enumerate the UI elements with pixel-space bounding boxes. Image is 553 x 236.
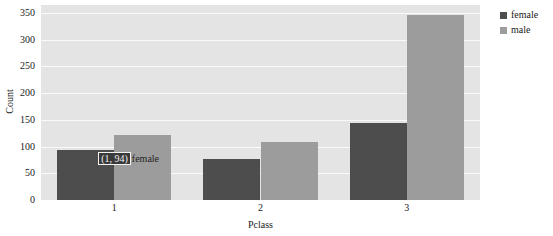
y-tick-label: 150 (20, 115, 35, 125)
y-tick-label: 300 (20, 35, 35, 45)
y-tick-label: 50 (25, 168, 35, 178)
x-tick-label: 2 (258, 202, 263, 213)
bar-1-male[interactable] (114, 135, 171, 200)
bar-chart-figure: Count 050100150200250300350 (1, 94)femal… (0, 0, 553, 236)
plot-area: (1, 94)female (41, 5, 480, 200)
legend-item-female[interactable]: female (500, 10, 538, 20)
y-tick-label: 0 (30, 195, 35, 205)
bar-3-female[interactable] (350, 123, 407, 200)
legend-item-male[interactable]: male (500, 25, 538, 35)
y-tick-label: 100 (20, 142, 35, 152)
bar-3-male[interactable] (407, 15, 464, 200)
legend-label: male (511, 25, 530, 35)
x-axis-tick-labels: 123 (41, 202, 480, 216)
tooltip-label: female (131, 153, 159, 164)
y-tick-label: 200 (20, 88, 35, 98)
legend-swatch-icon (500, 12, 507, 19)
legend: femalemale (500, 10, 538, 35)
legend-label: female (511, 10, 538, 20)
bar-2-male[interactable] (261, 142, 318, 200)
y-tick-label: 350 (20, 8, 35, 18)
legend-swatch-icon (500, 27, 507, 34)
y-tick-label: 250 (20, 61, 35, 71)
x-axis-title: Pclass (41, 219, 480, 230)
y-axis-tick-labels: 050100150200250300350 (0, 0, 38, 236)
x-tick-label: 1 (112, 202, 117, 213)
data-tooltip: (1, 94)female (98, 152, 159, 165)
tooltip-coordinate: (1, 94) (98, 152, 131, 165)
x-tick-label: 3 (404, 202, 409, 213)
bar-2-female[interactable] (203, 159, 260, 200)
